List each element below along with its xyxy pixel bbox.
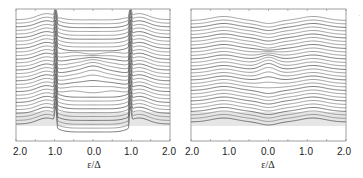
- right-panel: 2.0 1.0 0.0 1.0 2.0 ε/Δ: [185, 9, 351, 170]
- right-tick-label: 0.0: [261, 146, 275, 157]
- right-tick-label: 2.0: [337, 146, 351, 157]
- left-x-axis-label: ε/Δ: [87, 159, 101, 170]
- right-tick-label: 1.0: [299, 146, 313, 157]
- figure: 2.0 1.0 0.0 1.0 2.0 ε/Δ 2.0 1.0 0.0 1.0 …: [0, 0, 363, 178]
- right-tick-label: 2.0: [185, 146, 199, 157]
- right-tick-label: 1.0: [222, 146, 236, 157]
- left-tick-label: 1.0: [124, 146, 138, 157]
- left-tick-label: 0.0: [87, 146, 101, 157]
- right-x-axis-label: ε/Δ: [261, 159, 275, 170]
- left-panel: 2.0 1.0 0.0 1.0 2.0 ε/Δ: [13, 9, 176, 170]
- edge-mark: ': [359, 14, 360, 19]
- left-tick-label: 1.0: [48, 146, 62, 157]
- left-tick-label: 2.0: [162, 146, 176, 157]
- left-tick-label: 2.0: [13, 146, 27, 157]
